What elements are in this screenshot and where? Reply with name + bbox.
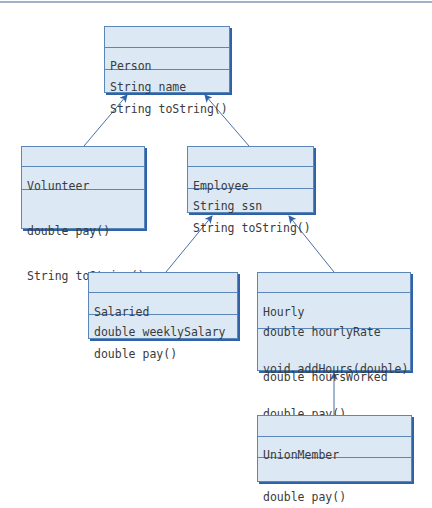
method: String toString() [193, 221, 308, 236]
class-salaried: Salaried double weeklySalary double pay(… [88, 272, 238, 339]
class-hourly: Hourly double hourlyRate double hoursWor… [257, 272, 411, 371]
class-person: Person String name String toString() [104, 26, 230, 93]
class-name-compartment: Volunteer [22, 147, 144, 167]
method: String toString() [110, 102, 224, 117]
class-name-compartment: Hourly [258, 273, 410, 293]
method: void addHours(double) [263, 362, 405, 377]
class-name-compartment: Employee [188, 147, 313, 167]
class-volunteer: Volunteer double pay() String toString() [21, 146, 145, 229]
class-name-compartment: UnionMember [258, 416, 411, 437]
class-employee: Employee String ssn String toString() [187, 146, 314, 213]
method: double pay() [94, 347, 232, 362]
class-name-compartment: Person [105, 27, 229, 48]
method: double pay() [27, 224, 139, 239]
class-unionmember: UnionMember double pay() [257, 415, 412, 482]
methods-compartment: double pay() String toString() [22, 190, 144, 228]
class-name-compartment: Salaried [89, 273, 237, 293]
method: double pay() [263, 490, 406, 505]
